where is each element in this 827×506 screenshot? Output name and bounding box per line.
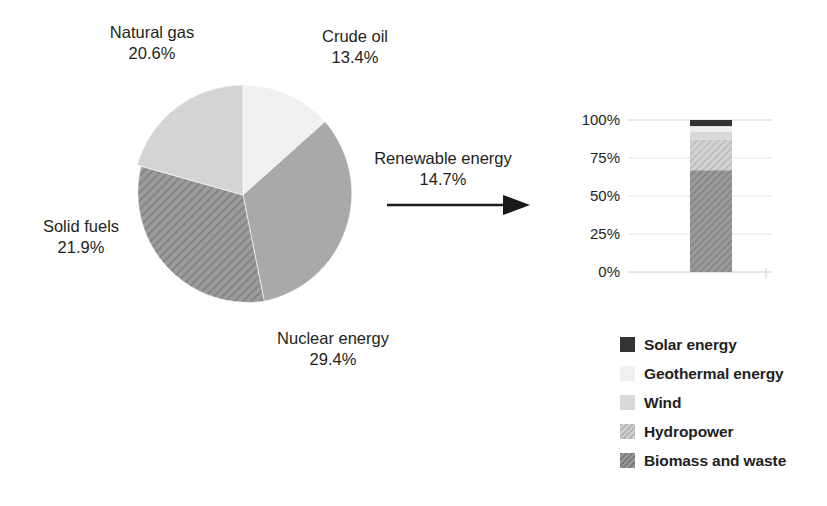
legend-label-wind: Wind <box>644 394 681 412</box>
pie-label-solid-fuels-name: Solid fuels <box>43 217 119 235</box>
pie-label-natural-gas-name: Natural gas <box>110 23 194 41</box>
legend-swatch-hydropower <box>620 424 635 439</box>
y-tick-100: 100% <box>582 111 620 128</box>
pie-label-natural-gas: Natural gas 20.6% <box>62 22 242 64</box>
stacked-bar-chart: 100% 75% 50% 25% 0% <box>560 100 790 290</box>
legend-swatch-wind <box>620 395 635 410</box>
pie-label-renewable-energy-value: 14.7% <box>358 169 528 190</box>
bar-segment-geothermal-energy[interactable] <box>690 126 732 131</box>
legend-item-geothermal-energy[interactable]: Geothermal energy <box>620 359 827 388</box>
pie-label-solid-fuels-value: 21.9% <box>16 237 146 258</box>
pie-label-crude-oil-name: Crude oil <box>322 27 388 45</box>
bar-chart-y-axis: 100% 75% 50% 25% 0% <box>582 111 620 280</box>
legend-label-biomass-and-waste: Biomass and waste <box>644 452 786 470</box>
y-tick-75: 75% <box>590 149 620 166</box>
pie-label-nuclear-energy-name: Nuclear energy <box>277 329 389 347</box>
legend-label-hydropower: Hydropower <box>644 423 733 441</box>
legend-item-wind[interactable]: Wind <box>620 388 827 417</box>
legend-item-hydropower[interactable]: Hydropower <box>620 417 827 446</box>
pie-label-natural-gas-value: 20.6% <box>62 43 242 64</box>
legend-swatch-geothermal-energy <box>620 366 635 381</box>
arrow-right-icon-svg <box>385 190 545 220</box>
legend-item-solar-energy[interactable]: Solar energy <box>620 330 827 359</box>
pie-label-crude-oil: Crude oil 13.4% <box>290 26 420 68</box>
y-tick-25: 25% <box>590 225 620 242</box>
legend-swatch-biomass-and-waste <box>620 453 635 468</box>
pie-label-solid-fuels: Solid fuels 21.9% <box>16 216 146 258</box>
legend-item-biomass-and-waste[interactable]: Biomass and waste <box>620 446 827 475</box>
pie-label-crude-oil-value: 13.4% <box>290 47 420 68</box>
pie-label-renewable-energy: Renewable energy 14.7% <box>358 148 528 190</box>
figure-canvas: Natural gas 20.6% Crude oil 13.4% Renewa… <box>0 0 827 506</box>
legend-swatch-solar-energy <box>620 337 635 352</box>
bar-segment-solar-energy[interactable] <box>690 120 732 126</box>
pie-label-renewable-energy-name: Renewable energy <box>374 149 512 167</box>
chart-legend: Solar energy Geothermal energy Wind Hydr… <box>620 330 827 475</box>
pie-label-nuclear-energy: Nuclear energy 29.4% <box>248 328 418 370</box>
y-tick-50: 50% <box>590 187 620 204</box>
bar-segment-biomass-and-waste[interactable] <box>690 170 732 272</box>
stacked-bar-column[interactable] <box>690 120 732 272</box>
legend-label-geothermal-energy: Geothermal energy <box>644 365 784 383</box>
bar-segment-wind[interactable] <box>690 131 732 139</box>
pie-label-nuclear-energy-value: 29.4% <box>248 349 418 370</box>
arrow-right-icon <box>385 190 545 220</box>
legend-label-solar-energy: Solar energy <box>644 336 737 354</box>
bar-segment-hydropower[interactable] <box>690 140 732 170</box>
stacked-bar-chart-svg: 100% 75% 50% 25% 0% <box>560 100 790 290</box>
y-tick-0: 0% <box>598 263 620 280</box>
